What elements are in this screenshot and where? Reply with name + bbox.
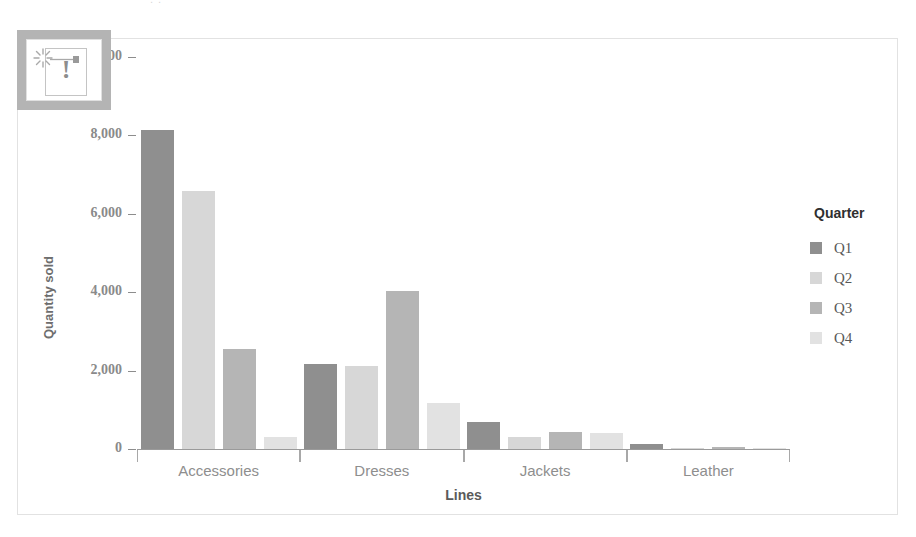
legend-swatch-icon (810, 332, 822, 344)
x-axis-title: Lines (137, 487, 790, 503)
legend-item-label: Q1 (834, 240, 852, 257)
legend-swatch-icon (810, 272, 822, 284)
clipped-top-text: . . (0, 0, 916, 10)
legend-item-label: Q3 (834, 300, 852, 317)
broken-image-placeholder[interactable]: ! (17, 30, 111, 110)
legend-item-label: Q2 (834, 270, 852, 287)
legend-item[interactable]: Q3 (810, 293, 900, 323)
legend-swatch-icon (810, 302, 822, 314)
legend-item[interactable]: Q2 (810, 263, 900, 293)
legend-item-label: Q4 (834, 330, 852, 347)
legend-item[interactable]: Q1 (810, 233, 900, 263)
broken-image-glyph-box: ! (45, 48, 87, 96)
legend-title: Quarter (814, 205, 900, 221)
legend-item[interactable]: Q4 (810, 323, 900, 353)
legend-items: Q1Q2Q3Q4 (810, 233, 900, 353)
chart-legend: Quarter Q1Q2Q3Q4 (810, 205, 900, 353)
y-axis-title: Quantity sold (41, 228, 56, 368)
broken-link-arm-icon (50, 55, 80, 64)
chart-frame (17, 38, 898, 515)
legend-swatch-icon (810, 242, 822, 254)
broken-image-inner-border: ! (26, 39, 102, 101)
